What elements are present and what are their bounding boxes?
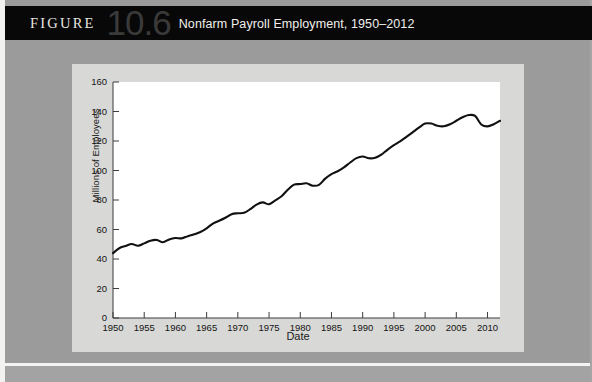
svg-text:80: 80 (96, 194, 107, 205)
figure-page: FIGURE 10.6 Nonfarm Payroll Employment, … (0, 0, 592, 382)
figure-label: FIGURE (30, 16, 96, 31)
plot-wrapper: Millions of Employees 020406080100120140… (72, 64, 524, 352)
chart-panel: Millions of Employees 020406080100120140… (72, 64, 524, 352)
svg-text:20: 20 (96, 283, 107, 294)
figure-title: Nonfarm Payroll Employment, 1950–2012 (179, 18, 415, 31)
page-lower-band (5, 366, 590, 382)
svg-text:40: 40 (96, 253, 107, 264)
svg-text:120: 120 (91, 135, 107, 146)
figure-header-band: FIGURE 10.6 Nonfarm Payroll Employment, … (5, 6, 592, 40)
figure-number: 10.6 (107, 6, 171, 40)
page-left-margin (0, 0, 5, 382)
plot-area-background (113, 82, 500, 318)
svg-text:160: 160 (91, 76, 107, 87)
svg-text:60: 60 (96, 224, 107, 235)
svg-text:140: 140 (91, 106, 107, 117)
svg-text:100: 100 (91, 165, 107, 176)
x-axis-title: Date (72, 330, 524, 342)
y-axis-tick-labels: 020406080100120140160 (91, 76, 107, 323)
employment-line-chart: 020406080100120140160 195019551960196519… (72, 64, 524, 352)
